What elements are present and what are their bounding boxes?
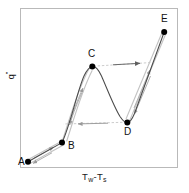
x-axis-label: Tw-Ts <box>0 171 189 183</box>
y-axis-label-symbol: q <box>6 74 16 79</box>
y-axis-label: q" <box>5 67 16 85</box>
data-point-b <box>59 140 65 146</box>
data-point-e <box>161 29 167 35</box>
data-point-a <box>25 159 31 165</box>
boiling-curve-figure: A B C D E q" Tw-Ts <box>0 0 189 193</box>
y-axis-label-doubleprime: " <box>5 72 12 75</box>
data-point-label-c: C <box>88 49 95 59</box>
data-point-label-e: E <box>161 14 168 24</box>
plot-frame <box>21 9 178 168</box>
data-point-label-d: D <box>124 127 131 137</box>
x-axis-label-minus-t: -T <box>94 171 104 182</box>
data-point-label-b: B <box>68 141 75 151</box>
plot-canvas <box>0 0 189 193</box>
data-point-d <box>124 120 130 126</box>
x-axis-label-sub-s: s <box>103 176 107 183</box>
data-point-c <box>89 63 95 69</box>
data-point-label-a: A <box>18 157 25 167</box>
